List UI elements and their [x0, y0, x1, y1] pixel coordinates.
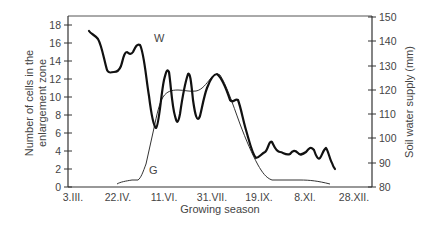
right-y-axis-title: Soil water supply (mm) [403, 46, 415, 158]
tick-label: 110 [379, 108, 396, 120]
tick-label: 4 [55, 145, 61, 157]
series-w-line [89, 31, 335, 169]
tick-label: 8 [55, 109, 61, 121]
left-y-axis-title-line2: enlargement zone [36, 59, 48, 147]
tick-label: 90 [379, 157, 391, 169]
series-g-label: G [149, 164, 158, 176]
tick-label: 140 [379, 35, 397, 47]
tick-label: 28.XII. [339, 191, 369, 203]
tick-label: 11.VI. [151, 191, 178, 203]
x-tick-labels: 3.III. 22.IV. 11.VI. 31.VII. 19.IX. 8.XI… [63, 191, 369, 203]
tick-label: 80 [379, 181, 391, 193]
tick-label: 130 [379, 60, 397, 72]
x-axis-title: Growing season [180, 203, 260, 215]
tick-label: 120 [379, 84, 397, 96]
right-y-axis-title-text: Soil water supply (mm) [403, 46, 415, 158]
tick-label: 3.III. [63, 191, 83, 203]
tick-label: 31.VII. [197, 191, 227, 203]
tick-label: 16 [49, 37, 61, 49]
tick-label: 8.XI. [294, 191, 316, 203]
tick-label: 100 [379, 132, 397, 144]
left-y-axis-title: Number of cells in the enlargement zone [23, 50, 48, 156]
tick-label: 150 [379, 11, 397, 23]
tick-label: 14 [49, 55, 61, 67]
tick-label: 6 [55, 127, 61, 139]
tick-label: 0 [55, 181, 61, 193]
tick-label: 12 [49, 73, 61, 85]
left-y-axis-title-line1: Number of cells in the [23, 50, 35, 156]
chart: 0 2 4 6 8 10 12 14 16 18 80 90 100 110 1… [0, 0, 436, 227]
left-y-tick-labels: 0 2 4 6 8 10 12 14 16 18 [49, 19, 61, 193]
tick-label: 10 [49, 91, 61, 103]
tick-label: 18 [49, 19, 61, 31]
tick-label: 22.IV. [105, 191, 131, 203]
tick-label: 19.IX. [245, 191, 272, 203]
tick-label: 2 [55, 163, 61, 175]
right-y-tick-labels: 80 90 100 110 120 130 140 150 [379, 11, 397, 193]
series-w-label: W [154, 32, 165, 44]
